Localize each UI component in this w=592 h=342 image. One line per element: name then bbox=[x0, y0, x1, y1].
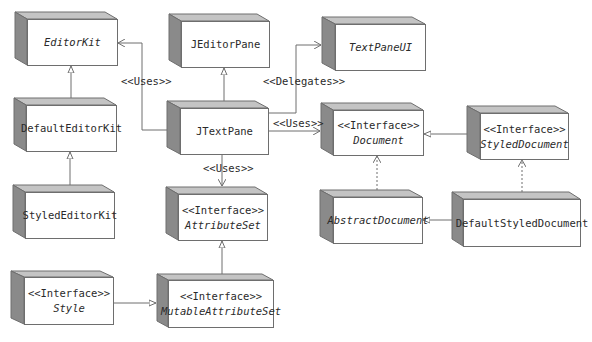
class-name: JEditorPane bbox=[191, 37, 261, 52]
edge-label-delegates: <<Delegates>> bbox=[263, 75, 345, 87]
class-name: DefaultStyledDocument bbox=[456, 216, 589, 231]
stereotype: <<Interface>> bbox=[182, 203, 264, 218]
stereotype: <<Interface>> bbox=[337, 118, 419, 133]
class-name: EditorKit bbox=[44, 35, 101, 50]
stereotype: <<Interface>> bbox=[483, 122, 565, 137]
class-name: StyledEditorKit bbox=[23, 208, 118, 223]
stereotype: <<Interface>> bbox=[180, 289, 262, 304]
class-name: StyledDocument bbox=[480, 137, 569, 152]
class-name: AbstractDocument bbox=[327, 213, 428, 228]
edge-label-uses-attributeset: <<Uses>> bbox=[203, 162, 254, 174]
class-diagram: <<Uses>> <<Delegates>> <<Uses>> <<Uses>>… bbox=[0, 0, 592, 342]
class-name: AttributeSet bbox=[185, 218, 261, 233]
stereotype: <<Interface>> bbox=[28, 286, 110, 301]
edge-label-uses-editorkit: <<Uses>> bbox=[121, 75, 172, 87]
class-name: Document bbox=[353, 133, 404, 148]
class-name: TextPaneUI bbox=[349, 40, 412, 55]
class-name: MutableAttributeSet bbox=[161, 304, 281, 319]
class-name: Style bbox=[53, 301, 85, 316]
class-name: DefaultEditorKit bbox=[21, 121, 122, 136]
class-name: JTextPane bbox=[196, 124, 253, 139]
edge-label-uses-document: <<Uses>> bbox=[273, 117, 324, 129]
